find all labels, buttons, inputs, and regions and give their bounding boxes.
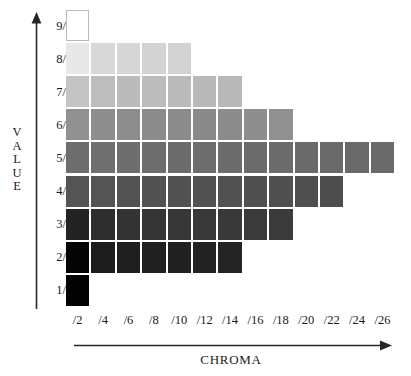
swatch-cell <box>117 176 140 207</box>
swatch-cell <box>244 209 267 240</box>
swatch-cell <box>66 209 89 240</box>
swatch-cell <box>218 76 241 107</box>
swatch-cell <box>218 242 241 273</box>
swatch-cell <box>91 209 114 240</box>
value-axis-letter: A <box>8 140 26 154</box>
swatch-cell <box>168 209 191 240</box>
swatch-cell <box>269 176 292 207</box>
swatch-cell <box>142 209 165 240</box>
swatch-cell <box>117 209 140 240</box>
swatch-cell <box>117 76 140 107</box>
swatch-cell <box>168 242 191 273</box>
swatch-cell <box>269 142 292 173</box>
swatch-cell <box>244 176 267 207</box>
value-axis-label: V A L U E <box>8 126 26 194</box>
swatch-cell <box>66 242 89 273</box>
chroma-axis-label: CHROMA <box>66 352 396 368</box>
value-axis-letter: L <box>8 153 26 167</box>
value-tick-label: 6/ <box>44 118 66 132</box>
value-tick-label: 3/ <box>44 217 66 231</box>
chroma-axis-arrow-icon <box>74 340 392 351</box>
value-tick-label: 9/ <box>44 19 66 33</box>
chroma-tick-label: /26 <box>368 312 398 328</box>
swatch-cell <box>66 142 89 173</box>
value-tick-label: 5/ <box>44 151 66 165</box>
swatch-cell <box>142 176 165 207</box>
swatch-cell <box>244 142 267 173</box>
swatch-cell <box>66 109 89 140</box>
swatch-cell <box>320 176 343 207</box>
swatch-cell <box>66 275 89 306</box>
swatch-cell <box>117 242 140 273</box>
swatch-cell <box>66 10 89 41</box>
swatch-cell <box>91 43 114 74</box>
swatch-cell <box>295 176 318 207</box>
swatch-cell <box>66 43 89 74</box>
swatch-cell <box>168 109 191 140</box>
swatch-cell <box>142 43 165 74</box>
swatch-cell <box>345 142 368 173</box>
value-axis-letter: U <box>8 167 26 181</box>
swatch-cell <box>168 43 191 74</box>
swatch-cell <box>193 109 216 140</box>
value-tick-label: 4/ <box>44 184 66 198</box>
chroma-tick-labels: /2/4/6/8/10/12/14/16/18/20/22/24/26 <box>66 312 400 330</box>
swatch-cell <box>218 176 241 207</box>
swatch-cell <box>269 209 292 240</box>
swatch-cell <box>91 142 114 173</box>
swatch-cell <box>168 142 191 173</box>
swatch-cell <box>269 109 292 140</box>
swatch-cell <box>142 76 165 107</box>
swatch-cell <box>193 209 216 240</box>
swatch-cell <box>218 142 241 173</box>
swatch-cell <box>117 142 140 173</box>
swatch-cell <box>91 176 114 207</box>
swatch-cell <box>371 142 394 173</box>
swatch-cell <box>117 43 140 74</box>
value-tick-label: 1/ <box>44 283 66 297</box>
swatch-cell <box>168 176 191 207</box>
value-axis-letter: E <box>8 180 26 194</box>
munsell-swatch-grid <box>66 10 396 310</box>
swatch-cell <box>66 176 89 207</box>
value-tick-labels: 9/8/7/6/5/4/3/2/1/ <box>44 10 66 310</box>
value-tick-label: 2/ <box>44 250 66 264</box>
swatch-cell <box>218 109 241 140</box>
swatch-cell <box>91 76 114 107</box>
swatch-cell <box>142 242 165 273</box>
swatch-cell <box>193 76 216 107</box>
swatch-cell <box>117 109 140 140</box>
value-axis-arrow-icon <box>30 12 43 310</box>
swatch-cell <box>142 109 165 140</box>
swatch-cell <box>295 142 318 173</box>
swatch-cell <box>244 109 267 140</box>
swatch-cell <box>193 242 216 273</box>
swatch-cell <box>320 142 343 173</box>
swatch-cell <box>218 209 241 240</box>
value-tick-label: 8/ <box>44 52 66 66</box>
swatch-cell <box>66 76 89 107</box>
value-axis-letter: V <box>8 126 26 140</box>
swatch-cell <box>142 142 165 173</box>
value-tick-label: 7/ <box>44 85 66 99</box>
swatch-cell <box>193 142 216 173</box>
swatch-cell <box>193 176 216 207</box>
swatch-cell <box>168 76 191 107</box>
swatch-cell <box>91 242 114 273</box>
swatch-cell <box>91 109 114 140</box>
